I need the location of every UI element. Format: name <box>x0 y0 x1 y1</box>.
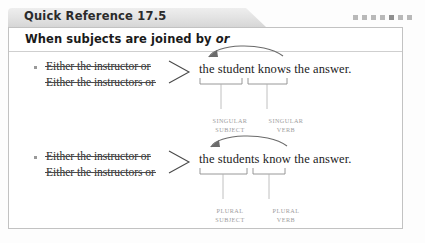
label-verb-line2: VERB <box>257 216 315 225</box>
heading-prefix: When subjects are joined by <box>25 32 216 46</box>
decor-square-2 <box>362 15 367 20</box>
decor-square-1 <box>353 15 358 20</box>
label-verb-line1: PLURAL <box>257 207 315 216</box>
sentence-lead: the <box>199 62 218 76</box>
decor-square-5 <box>389 15 394 20</box>
square-bullet-icon <box>34 156 37 159</box>
example-sentence: the students know the answer. <box>199 152 352 167</box>
content-box: When subjects are joined by or Either th… <box>8 27 403 229</box>
sentence-subject: students <box>218 152 260 166</box>
decor-square-3 <box>371 15 376 20</box>
list-item: Either the instructors or <box>46 74 155 90</box>
label-subject-line2: SUBJECT <box>195 216 265 225</box>
page-title: Quick Reference 17.5 <box>24 9 166 23</box>
alternatives-list: Either the instructor or Either the inst… <box>46 58 155 90</box>
square-bullet-icon <box>34 66 37 69</box>
decor-square-6 <box>398 15 403 20</box>
label-subject: PLURAL SUBJECT <box>195 207 265 224</box>
sentence-lead: the <box>199 152 218 166</box>
label-subject-line1: PLURAL <box>195 207 265 216</box>
label-verb: PLURAL VERB <box>257 207 315 224</box>
sentence-tail: the answer. <box>291 152 352 166</box>
alternative-line-1: Either the instructor or <box>46 148 150 164</box>
alternative-line-1: Either the instructor or <box>46 58 150 74</box>
label-subject-line1: SINGULAR <box>195 117 265 126</box>
alternative-line-2: Either the instructors or <box>46 164 155 180</box>
decor-square-7 <box>407 15 412 20</box>
annotation-markers: PLURAL SUBJECT PLURAL VERB <box>195 167 375 229</box>
sentence-verb: know <box>263 152 291 166</box>
decorative-squares <box>353 15 412 20</box>
sentence-tail: the answer. <box>291 62 352 76</box>
quick-reference-card: Quick Reference 17.5 When subjects are j… <box>0 0 425 243</box>
angle-brace-icon <box>167 148 193 176</box>
list-item: Either the instructor or <box>46 148 155 164</box>
example-sentence: the student knows the answer. <box>199 62 352 77</box>
label-verb-line1: SINGULAR <box>257 117 315 126</box>
alternative-line-2: Either the instructors or <box>46 74 155 90</box>
sentence-subject: student <box>218 62 255 76</box>
list-item: Either the instructor or <box>46 58 155 74</box>
list-item: Either the instructors or <box>46 164 155 180</box>
angle-brace-icon <box>167 58 193 86</box>
alternatives-list: Either the instructor or Either the inst… <box>46 148 155 180</box>
decor-square-4 <box>380 15 385 20</box>
sentence-verb: knows <box>258 62 291 76</box>
